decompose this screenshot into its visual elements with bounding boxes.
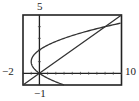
parabola-curve (31, 23, 120, 85)
xmin-label: −2 (2, 66, 14, 77)
xmax-label: 10 (125, 66, 136, 77)
graph-plot (0, 0, 139, 101)
ymax-label: 5 (37, 1, 43, 12)
ymin-label: −1 (34, 88, 46, 99)
plot-area (23, 15, 122, 85)
